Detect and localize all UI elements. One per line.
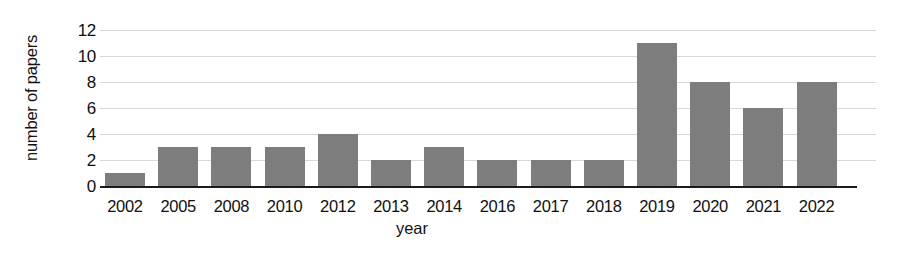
bar	[105, 173, 145, 186]
x-axis-line	[100, 186, 857, 188]
x-tick-label: 2019	[631, 196, 683, 216]
bar	[743, 108, 783, 186]
y-tick-label: 12	[44, 22, 96, 39]
y-axis-tick-labels: 024681012	[44, 0, 96, 253]
y-tick-label: 6	[44, 100, 96, 117]
bar	[211, 147, 251, 186]
bar	[531, 160, 571, 186]
x-tick-label: 2017	[525, 196, 577, 216]
x-tick-label: 2018	[578, 196, 630, 216]
x-axis-title: year	[100, 218, 876, 238]
bar	[797, 82, 837, 186]
x-tick-label: 2008	[205, 196, 257, 216]
x-tick-label: 2021	[737, 196, 789, 216]
x-tick-label: 2016	[471, 196, 523, 216]
bar-chart-figure: number of papers 024681012 2002200520082…	[0, 0, 914, 253]
y-tick-label: 8	[44, 74, 96, 91]
bar	[584, 160, 624, 186]
x-tick-label: 2005	[152, 196, 204, 216]
bar	[424, 147, 464, 186]
y-axis-title: number of papers	[22, 5, 44, 191]
x-tick-label: 2013	[365, 196, 417, 216]
x-tick-label: 2014	[418, 196, 470, 216]
bar	[690, 82, 730, 186]
bar	[265, 147, 305, 186]
x-tick-label: 2010	[259, 196, 311, 216]
bar	[318, 134, 358, 186]
bar	[637, 43, 677, 186]
y-tick-label: 10	[44, 48, 96, 65]
x-tick-label: 2022	[791, 196, 843, 216]
y-tick-label: 0	[44, 178, 96, 195]
x-axis-title-text: year	[396, 219, 428, 237]
bar	[477, 160, 517, 186]
y-tick-label: 2	[44, 152, 96, 169]
x-tick-label: 2012	[312, 196, 364, 216]
x-tick-label: 2020	[684, 196, 736, 216]
bar	[158, 147, 198, 186]
y-tick-label: 4	[44, 126, 96, 143]
plot-area: 2002200520082010201220132014201620172018…	[100, 0, 876, 253]
bar	[371, 160, 411, 186]
x-tick-label: 2002	[99, 196, 151, 216]
